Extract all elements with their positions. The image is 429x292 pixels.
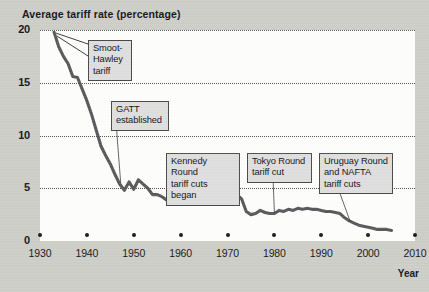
y-axis-tick-label: 0 [4,234,30,246]
x-axis-tick-label: 1940 [67,247,107,259]
x-axis-tick-label: 1930 [20,247,60,259]
annotation-line: tariff cuts began [171,179,235,202]
x-axis-tick-label: 2010 [395,247,429,259]
y-axis-tick-label: 15 [4,76,30,88]
x-axis-tick-label: 1960 [161,247,201,259]
x-axis-tick-dot [179,233,183,237]
annotation-kennedy-round: Kennedy Round tariff cuts began [166,153,240,206]
x-axis-tick-dot [38,233,42,237]
annotation-gatt-established: GATT established [111,101,169,131]
page-title: Average tariff rate (percentage) [22,8,181,20]
x-axis-tick-label: 2000 [348,247,388,259]
annotation-tokyo-round: Tokyo Round tariff cut [247,153,312,183]
annotation-line: and NAFTA [324,167,388,178]
x-axis-tick-label: 1970 [208,247,248,259]
x-axis-title: Year [398,268,419,279]
annotation-line: Tokyo Round [252,156,307,167]
tariff-chart-figure: Average tariff rate (percentage) 2015105… [0,0,429,292]
y-axis-tick-label: 20 [4,23,30,35]
y-axis-tick-label: 5 [4,181,30,193]
annotation-line: established [116,115,164,126]
annotation-line: GATT [116,104,164,115]
x-axis-tick-dot [132,233,136,237]
x-axis-tick-label: 1950 [114,247,154,259]
annotation-line: tariff [93,66,127,77]
annotation-line: Hawley [93,54,127,65]
x-axis-tick-dot [226,233,230,237]
x-axis-tick-label: 1980 [254,247,294,259]
annotation-line: Uruguay Round [324,156,388,167]
x-axis-tick-dot [413,233,417,237]
annotation-uruguay-nafta: Uruguay Round and NAFTA tariff cuts [319,153,393,194]
annotation-line: Kennedy Round [171,156,235,179]
y-axis-tick-label: 10 [4,129,30,141]
annotation-smoot-hawley: Smoot- Hawley tariff [88,40,132,81]
x-axis-tick-label: 1990 [301,247,341,259]
annotation-line: Smoot- [93,43,127,54]
annotation-line: tariff cut [252,167,307,178]
annotation-line: tariff cuts [324,179,388,190]
x-axis-tick-dot [85,233,89,237]
